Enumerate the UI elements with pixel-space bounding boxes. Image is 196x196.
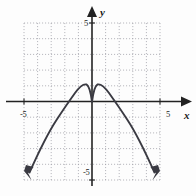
- x-axis: [6, 97, 192, 107]
- y-axis-tick-label-positive-five: 5: [84, 19, 88, 28]
- x-axis-label: x: [184, 110, 190, 121]
- x-axis-tick-label-positive-five: 5: [166, 110, 170, 119]
- graph-figure: y x 5 -5 -5 5: [0, 0, 196, 196]
- coordinate-plane: [0, 0, 196, 196]
- y-axis-label: y: [100, 7, 105, 18]
- x-axis-tick-label-negative-five: -5: [20, 110, 26, 119]
- y-axis-tick-label-negative-five: -5: [83, 168, 89, 177]
